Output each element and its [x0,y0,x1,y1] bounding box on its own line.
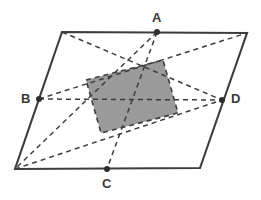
point-a-dot [154,29,160,35]
figure-canvas [0,0,261,200]
point-label-c: C [102,177,111,190]
dashed-line-b-d [39,99,222,100]
point-c-dot [104,166,110,172]
point-label-d: D [231,92,240,105]
point-b-dot [36,96,42,102]
point-label-a: A [152,11,161,24]
point-label-b: B [21,92,30,105]
shaded-inner-quadrilateral [86,60,178,133]
point-d-dot [219,97,225,103]
geometry-figure: A B C D [0,0,261,200]
